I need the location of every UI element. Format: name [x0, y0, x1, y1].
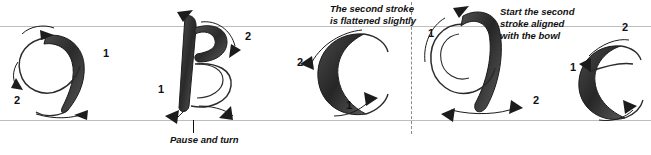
letter-d-stroke-number-2: 2	[533, 95, 539, 106]
annotation-pause-and-turn-leader	[193, 120, 194, 133]
letter-e-figure	[565, 28, 650, 128]
letter-a-figure	[10, 18, 130, 128]
letter-e-stroke-number-1: 1	[570, 62, 576, 73]
annotation-pause-and-turn: Pause and turn	[170, 134, 290, 146]
letter-a-stroke-number-1: 1	[103, 48, 109, 59]
letter-b-figure	[155, 6, 265, 131]
letter-c-stroke-number-2: 2	[297, 57, 303, 68]
letter-c-stroke-number-1: 1	[346, 100, 352, 111]
letter-b-stroke-number-2: 2	[245, 31, 251, 42]
letter-e-stroke-number-2: 2	[622, 22, 628, 33]
letter-d-stroke-number-1: 1	[428, 28, 434, 39]
letter-c-figure	[292, 24, 397, 124]
letter-b-stroke-number-1: 1	[158, 84, 164, 95]
letter-a-stroke-number-2: 2	[14, 95, 20, 106]
diagram-canvas: 1 2	[0, 0, 651, 155]
